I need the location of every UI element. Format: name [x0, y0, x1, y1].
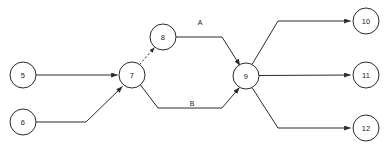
edge-label-a: A [198, 19, 203, 26]
graph-svg: A B 5 6 7 8 9 [0, 0, 391, 153]
node-7[interactable]: 7 [119, 62, 145, 88]
node-11[interactable]: 11 [353, 62, 379, 88]
node-11-label: 11 [362, 71, 370, 80]
edge-9-to-10[interactable] [252, 21, 351, 65]
edge-9-to-11[interactable] [259, 75, 351, 76]
node-10-label: 10 [362, 17, 371, 26]
node-5-label: 5 [21, 71, 25, 80]
edge-label-layer: A B [190, 19, 203, 107]
node-8-label: 8 [161, 33, 165, 42]
node-12[interactable]: 12 [353, 115, 379, 141]
edge-label-b: B [190, 100, 195, 107]
node-6[interactable]: 6 [10, 109, 36, 135]
node-8[interactable]: 8 [150, 24, 176, 50]
node-12-label: 12 [362, 124, 371, 133]
edge-7-to-8[interactable] [140, 48, 155, 65]
node-7-label: 7 [130, 71, 134, 80]
edge-layer [36, 21, 351, 128]
node-5[interactable]: 5 [10, 62, 36, 88]
edge-6-to-7[interactable] [36, 87, 123, 123]
node-6-label: 6 [21, 118, 25, 127]
node-10[interactable]: 10 [353, 8, 379, 34]
diagram-canvas: A B 5 6 7 8 9 [0, 0, 391, 153]
node-9[interactable]: 9 [233, 63, 259, 89]
edge-8-to-9[interactable] [176, 37, 240, 66]
edge-9-to-12[interactable] [252, 88, 351, 129]
node-9-label: 9 [244, 72, 248, 81]
